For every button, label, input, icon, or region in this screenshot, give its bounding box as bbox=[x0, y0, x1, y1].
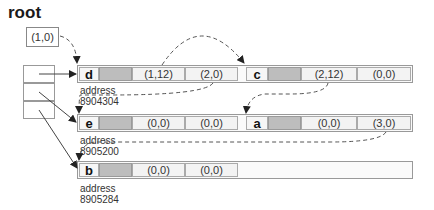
c-to-a-arrow bbox=[246, 83, 328, 113]
arrows-layer bbox=[0, 0, 434, 210]
d-to-c-arrow bbox=[162, 36, 244, 65]
d-to-e-arrow bbox=[79, 83, 213, 113]
a-to-b-arrow bbox=[79, 132, 386, 160]
root-to-d-arrow bbox=[60, 36, 77, 63]
hash-to-e-arrow bbox=[39, 92, 76, 122]
